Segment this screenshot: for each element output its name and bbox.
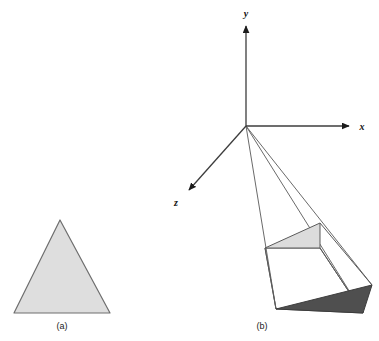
z-axis-label: z — [173, 197, 178, 208]
x-axis-label: x — [359, 121, 365, 132]
panel-b-caption: (b) — [257, 321, 268, 331]
figure-canvas: (a) y x z (b) — [0, 0, 379, 341]
panel-a-caption: (a) — [57, 321, 68, 331]
y-axis-label: y — [243, 8, 249, 19]
